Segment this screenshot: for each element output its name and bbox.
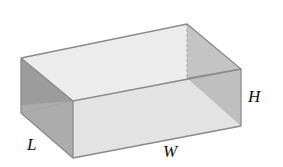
box-diagram: L W H (0, 0, 283, 167)
height-label: H (248, 88, 260, 105)
width-label: W (163, 143, 177, 160)
length-label: L (27, 136, 36, 153)
box-figure (0, 0, 283, 167)
